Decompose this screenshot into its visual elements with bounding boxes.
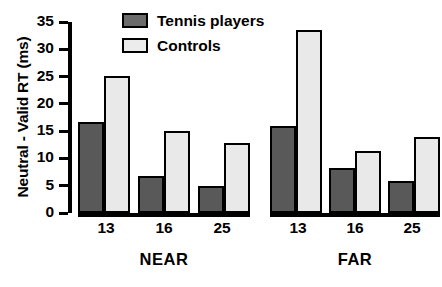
legend-item-controls: Controls xyxy=(122,33,264,58)
bar xyxy=(224,143,250,213)
y-tick-mark xyxy=(59,157,68,160)
legend-swatch-controls xyxy=(122,38,148,53)
bar-chart-figure: Neutral - Valid RT (ms) 35302520151050 1… xyxy=(0,0,442,287)
y-tick-label: 30 xyxy=(22,38,54,58)
bar xyxy=(138,176,164,213)
panel-title-near: NEAR xyxy=(78,250,250,269)
y-tick-mark xyxy=(59,212,68,215)
bar-group xyxy=(388,22,440,213)
bar xyxy=(198,186,224,213)
y-tick-label: 5 xyxy=(22,175,54,195)
bar xyxy=(164,131,190,213)
y-tick-label: 15 xyxy=(22,120,54,140)
bar xyxy=(355,151,381,213)
category-label: 13 xyxy=(78,219,134,237)
bar-group xyxy=(270,22,322,213)
y-tick-mark xyxy=(59,130,68,133)
y-axis-line xyxy=(68,22,72,213)
legend-swatch-tennis-players xyxy=(122,13,148,28)
category-label: 16 xyxy=(327,219,383,237)
bar xyxy=(414,137,440,213)
y-tick-mark xyxy=(59,48,68,51)
y-tick-label: 25 xyxy=(22,66,54,86)
y-tick-label: 35 xyxy=(22,11,54,31)
y-tick-mark xyxy=(59,75,68,78)
y-tick-label: 10 xyxy=(22,147,54,167)
panel-far: 131625 FAR xyxy=(270,22,440,213)
bar xyxy=(78,122,104,213)
legend-item-tennis-players: Tennis players xyxy=(122,8,264,33)
bar xyxy=(329,168,355,213)
y-tick-mark xyxy=(59,102,68,105)
bar-group xyxy=(329,22,381,213)
bar xyxy=(104,76,130,213)
chart-legend: Tennis players Controls xyxy=(122,8,264,58)
bar xyxy=(296,30,322,213)
legend-label-tennis-players: Tennis players xyxy=(157,12,264,30)
category-label: 16 xyxy=(136,219,192,237)
legend-label-controls: Controls xyxy=(157,37,221,55)
x-axis-line-far xyxy=(270,213,440,217)
y-tick-mark xyxy=(59,184,68,187)
bar-groups-far xyxy=(270,22,440,213)
category-label: 25 xyxy=(194,219,250,237)
category-label: 25 xyxy=(384,219,440,237)
bar xyxy=(388,181,414,213)
bar xyxy=(270,126,296,213)
panel-title-far: FAR xyxy=(270,250,440,269)
category-labels-far: 131625 xyxy=(270,219,440,237)
y-tick-label: 20 xyxy=(22,93,54,113)
x-axis-line-near xyxy=(78,213,250,217)
y-tick-mark xyxy=(59,21,68,24)
category-labels-near: 131625 xyxy=(78,219,250,237)
y-tick-label: 0 xyxy=(22,202,54,222)
category-label: 13 xyxy=(270,219,326,237)
